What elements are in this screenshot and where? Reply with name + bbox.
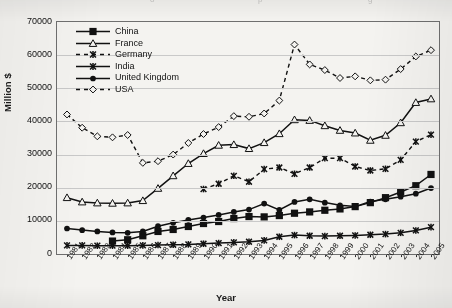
legend-item-france[interactable]: France <box>75 38 179 50</box>
data-point-filled-circle <box>276 207 282 213</box>
data-point-filled-circle <box>216 212 222 218</box>
series-line <box>204 135 432 189</box>
data-point-filled-square <box>427 171 434 178</box>
legend-key-icon <box>75 38 111 49</box>
data-point-filled-square <box>306 208 313 215</box>
data-point-filled-circle <box>110 230 116 236</box>
y-axis-tick-label: 0 <box>4 249 52 258</box>
legend-key-icon <box>75 49 111 60</box>
data-point-open-diamond <box>428 47 435 54</box>
data-point-star-x <box>231 172 237 179</box>
data-point-star-x <box>398 157 404 164</box>
data-point-filled-circle <box>413 191 419 197</box>
data-point-star-x <box>292 170 298 177</box>
data-point-filled-circle <box>201 215 207 221</box>
legend-item-germany[interactable]: Germany <box>75 49 179 61</box>
data-point-filled-circle <box>367 199 373 205</box>
data-point-filled-circle <box>398 194 404 200</box>
data-point-star-x <box>428 131 434 138</box>
scan-artifact-glyph: o <box>150 0 154 4</box>
legend-item-label: USA <box>111 84 134 96</box>
data-point-filled-circle <box>64 226 70 232</box>
data-point-filled-square <box>321 207 328 214</box>
legend-item-china[interactable]: China <box>75 26 179 38</box>
data-point-filled-circle <box>125 230 131 236</box>
legend-key-icon <box>75 73 111 84</box>
data-point-open-triangle <box>185 160 192 167</box>
data-point-filled-circle <box>337 202 343 208</box>
data-point-filled-square <box>276 212 283 219</box>
scan-artifact-text: o p g <box>0 0 452 9</box>
data-point-filled-circle <box>261 201 267 207</box>
data-point-open-triangle <box>427 95 435 102</box>
data-point-filled-square <box>291 210 298 217</box>
data-point-open-diamond <box>382 76 389 83</box>
data-point-open-diamond <box>124 132 131 139</box>
data-point-open-diamond <box>155 158 162 165</box>
series-france <box>63 95 435 206</box>
data-point-star-x <box>201 186 207 193</box>
data-point-open-diamond <box>276 97 283 104</box>
data-point-star-x <box>352 163 358 170</box>
legend-item-label: China <box>111 26 139 38</box>
scan-artifact-glyph: g <box>368 0 372 4</box>
data-point-filled-circle <box>383 196 389 202</box>
legend-item-label: India <box>111 61 135 73</box>
legend-item-label: United Kingdom <box>111 72 179 84</box>
y-axis-tick-label: 70000 <box>4 17 52 26</box>
data-point-open-diamond <box>200 131 207 138</box>
legend-key-icon <box>75 26 111 37</box>
data-point-open-diamond <box>352 73 359 80</box>
data-point-open-triangle <box>260 139 268 146</box>
data-point-filled-circle <box>155 223 161 229</box>
data-point-open-diamond <box>109 134 116 141</box>
data-point-star-x <box>413 138 419 145</box>
y-axis-tick-label: 20000 <box>4 182 52 191</box>
x-axis-title: Year <box>0 292 452 303</box>
legend-item-usa[interactable]: USA <box>75 84 179 96</box>
legend-key-icon <box>75 84 111 95</box>
legend-item-india[interactable]: India <box>75 61 179 73</box>
y-axis-tick-label: 50000 <box>4 83 52 92</box>
data-point-filled-square <box>170 226 177 233</box>
data-point-open-diamond <box>367 77 374 84</box>
series-united-kingdom <box>64 185 434 235</box>
data-point-filled-circle <box>79 227 85 233</box>
data-point-filled-square <box>124 236 131 243</box>
data-point-open-diamond <box>321 67 328 74</box>
legend-key-icon <box>75 61 111 72</box>
scan-artifact-glyph: p <box>258 0 262 4</box>
data-point-open-diamond <box>94 133 101 140</box>
data-point-star-x <box>216 180 222 187</box>
gridline <box>57 155 439 156</box>
gridline <box>57 188 439 189</box>
data-point-filled-circle <box>352 204 358 210</box>
data-point-open-diamond <box>291 41 298 48</box>
data-point-filled-square <box>261 213 268 220</box>
data-point-star-x <box>246 178 252 185</box>
data-point-filled-circle <box>94 229 100 235</box>
data-point-filled-circle <box>231 209 237 215</box>
data-point-open-diamond <box>246 113 253 120</box>
y-axis-tick-labels: 700006000050000400003000020000100000 <box>4 0 52 308</box>
data-point-star-x <box>261 166 267 173</box>
data-point-filled-square <box>89 28 96 35</box>
data-point-open-diamond <box>337 75 344 82</box>
data-point-filled-square <box>185 223 192 230</box>
legend-item-label: France <box>111 38 143 50</box>
data-point-open-diamond <box>185 140 192 147</box>
y-axis-tick-label: 40000 <box>4 116 52 125</box>
y-axis-tick-label: 30000 <box>4 149 52 158</box>
data-point-filled-circle <box>246 207 252 213</box>
y-axis-tick-label: 10000 <box>4 215 52 224</box>
data-point-filled-circle <box>307 196 313 202</box>
data-point-filled-circle <box>90 75 96 81</box>
data-point-filled-circle <box>140 229 146 235</box>
series-germany <box>201 131 434 192</box>
data-point-open-diamond <box>139 159 146 166</box>
gridline <box>57 121 439 122</box>
data-point-filled-circle <box>322 200 328 206</box>
chart-legend: ChinaFranceGermanyIndiaUnited KingdomUSA <box>73 24 183 98</box>
legend-item-united-kingdom[interactable]: United Kingdom <box>75 72 179 84</box>
x-axis-tick-labels: 1981198219831984198519861987198819891990… <box>56 256 440 296</box>
